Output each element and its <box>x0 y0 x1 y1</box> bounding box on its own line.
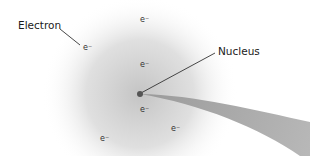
electron-symbol: e⁻ <box>140 105 149 114</box>
electron-symbol: e⁻ <box>140 60 149 69</box>
atom-diagram: Electron Nucleus e⁻e⁻e⁻e⁻e⁻e⁻ <box>0 0 310 156</box>
electron-symbol: e⁻ <box>140 15 149 24</box>
electron-label: Electron <box>18 19 61 31</box>
electron-symbol: e⁻ <box>171 124 180 133</box>
nucleus <box>137 91 143 97</box>
electron-symbol: e⁻ <box>83 43 92 52</box>
electron-symbol: e⁻ <box>100 134 109 143</box>
nucleus-label: Nucleus <box>218 45 260 57</box>
